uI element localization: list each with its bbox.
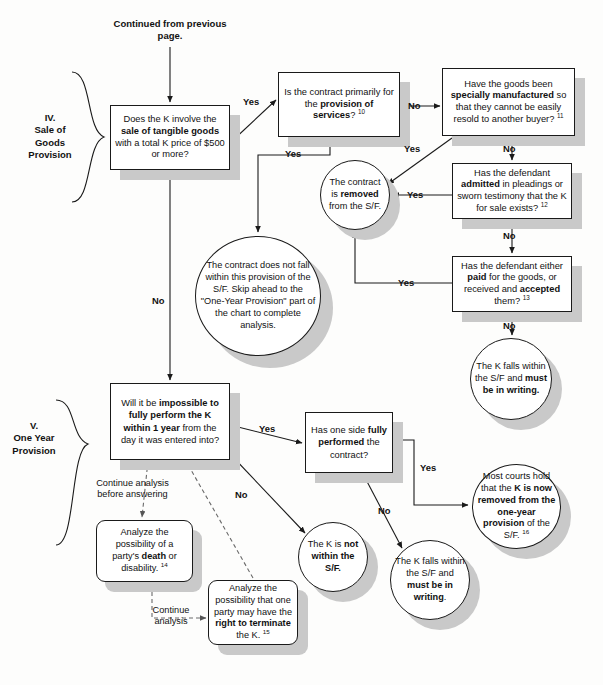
node-result-falls-within-writing-1[interactable]: The K falls within the S/F and must be i… — [470, 338, 552, 420]
edge-label-admitted-no: No — [503, 230, 516, 241]
edge-label-paid-no: No — [503, 320, 516, 331]
edge-label-performed-yes: Yes — [420, 462, 436, 473]
node-q-paid-accepted[interactable]: Has the defendant either paid for the go… — [452, 256, 572, 312]
edge-label-services-no: No — [408, 100, 421, 111]
node-analyze-death-disability[interactable]: Analyze the possibility of a party's dea… — [96, 520, 193, 582]
edge-label-admitted-yes: Yes — [407, 189, 423, 200]
node-analyze-death-disability-text: Analyze the possibility of a party's dea… — [97, 527, 192, 575]
node-result-most-courts-text: Most courts hold that the K is now remov… — [473, 471, 560, 542]
node-result-falls-within-writing-2[interactable]: The K falls within the S/F and must be i… — [390, 540, 470, 620]
node-q-impossible-one-year[interactable]: Will it be impossible to fully perform t… — [110, 383, 230, 460]
edge-label-continue-before-answering: Continue analysis before answering — [80, 478, 185, 500]
edge-label-specially-no: No — [503, 143, 516, 154]
edge-label-performed-no: No — [378, 505, 391, 516]
node-q-specially-manufactured-text: Have the goods been specially manufactur… — [443, 79, 574, 126]
node-q-services-text: Is the contract primarily for the provis… — [279, 87, 399, 123]
edge-label-specially-yes: Yes — [404, 143, 420, 154]
node-result-not-within-provision[interactable]: The contract does not fall within this p… — [195, 236, 321, 356]
node-result-removed-text: The contract is removed from the S/F. — [321, 177, 389, 213]
node-q-admitted-text: Has the defendant admitted in pleadings … — [453, 168, 571, 215]
node-analyze-right-terminate[interactable]: Analyze the possibility that one party m… — [208, 580, 298, 645]
edge-label-services-yes: Yes — [285, 148, 301, 159]
node-q-paid-accepted-text: Has the defendant either paid for the go… — [453, 261, 571, 308]
node-q-specially-manufactured[interactable]: Have the goods been specially manufactur… — [442, 68, 575, 136]
node-result-removed[interactable]: The contract is removed from the S/F. — [320, 160, 390, 230]
edge-label-paid-yes: Yes — [398, 277, 414, 288]
section-label-sale-of-goods: IV. Sale of Goods Provision — [14, 112, 86, 161]
edge-label-goods-yes: Yes — [243, 96, 259, 107]
section-label-one-year: V. One Year Provision — [0, 420, 70, 457]
node-analyze-right-terminate-text: Analyze the possibility that one party m… — [209, 583, 297, 643]
node-q-sale-goods[interactable]: Does the K involve the sale of tangible … — [110, 105, 230, 170]
node-result-not-within-sf[interactable]: The K is not within the S/F. — [298, 522, 368, 592]
node-q-admitted[interactable]: Has the defendant admitted in pleadings … — [452, 163, 572, 219]
node-result-falls-within-writing-2-text: The K falls within the S/F and must be i… — [391, 556, 469, 604]
node-result-most-courts[interactable]: Most courts hold that the K is now remov… — [472, 464, 561, 549]
page-header-continued: Continued from previous page. — [110, 18, 230, 41]
flowchart-canvas: IV. Sale of Goods Provision V. One Year … — [0, 0, 603, 685]
edge-label-goods-no: No — [152, 295, 165, 306]
node-q-fully-performed-text: Has one side fully performed the contrac… — [306, 424, 392, 460]
node-q-services[interactable]: Is the contract primarily for the provis… — [278, 72, 400, 137]
edge-label-continue-analysis: Continue analysis — [140, 605, 202, 627]
node-q-sale-goods-text: Does the K involve the sale of tangible … — [111, 114, 229, 162]
node-result-not-within-sf-text: The K is not within the S/F. — [299, 539, 367, 575]
node-q-impossible-one-year-text: Will it be impossible to fully perform t… — [111, 397, 229, 445]
node-result-not-within-provision-text: The contract does not fall within this p… — [196, 260, 320, 332]
edge-label-oneyear-no: No — [235, 489, 248, 500]
edge-label-oneyear-yes: Yes — [259, 423, 275, 434]
node-q-fully-performed[interactable]: Has one side fully performed the contrac… — [305, 412, 393, 473]
node-result-falls-within-writing-1-text: The K falls within the S/F and must be i… — [471, 361, 551, 397]
